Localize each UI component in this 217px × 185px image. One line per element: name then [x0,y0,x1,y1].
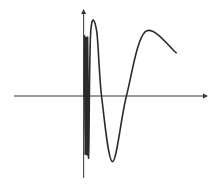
function-plot [0,0,217,185]
y-axis-arrow-icon [81,9,86,14]
x-axis-arrow-icon [203,94,208,99]
series-line-curve [84,20,176,162]
series-layer [84,20,176,162]
